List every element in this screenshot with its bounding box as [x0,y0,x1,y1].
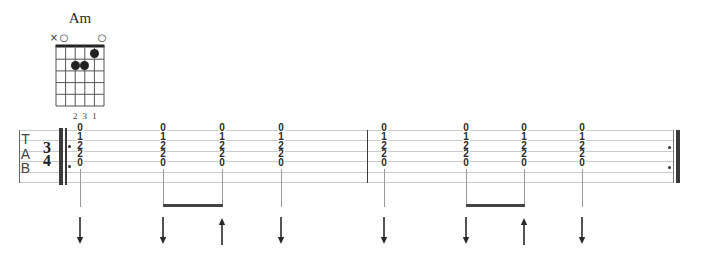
fret-number: 0 [521,159,528,168]
chord-event: 0 1 2 2 0 [158,124,168,167]
chord-event: 0 1 2 2 0 [379,124,389,167]
note-stem [281,169,282,207]
strum-arrow-icon [461,216,471,246]
staff-line [19,140,673,141]
tab-clef-a: A [19,147,32,161]
finger-dot [90,49,99,58]
staff-line [19,172,673,173]
note-stem [384,169,385,207]
finger-label: 3 [81,111,89,121]
note-stem [524,169,525,207]
strum-arrow-icon [519,216,529,246]
note-stem [222,169,223,207]
chord-event: 0 1 2 2 0 [276,124,286,167]
note-stem [582,169,583,207]
fretboard-grid [0,0,120,120]
tab-clef-b: B [19,161,32,175]
chord-event: 0 1 2 2 0 [217,124,227,167]
finger-label: 1 [90,111,98,121]
guitar-tab-sheet: Am × ○ ○ 2 3 1 [0,0,712,258]
tab-clef-t: T [19,132,32,146]
strum-arrow-icon [75,216,85,246]
repeat-dot [68,145,71,148]
strum-arrow-icon [217,216,227,246]
staff-line [19,151,673,152]
fret-number: 0 [278,159,285,168]
time-signature-denominator: 4 [40,154,54,168]
fret-number: 0 [381,159,388,168]
note-stem [80,169,81,207]
thick-barline [59,128,63,185]
finger-dot [71,61,80,70]
measure-barline [367,130,369,183]
fret-number: 0 [463,159,470,168]
chord-event: 0 1 2 2 0 [519,124,529,167]
finger-dot [80,61,89,70]
strum-arrow-icon [577,216,587,246]
strum-arrow-icon [379,216,389,246]
thick-barline [676,130,680,183]
fret-number: 0 [219,159,226,168]
repeat-dot [668,146,671,149]
finger-label: 2 [71,111,79,121]
note-stem [163,169,164,207]
strum-arrow-icon [158,216,168,246]
eighth-note-beam [466,204,525,207]
thin-barline [65,128,67,185]
eighth-note-beam [163,204,223,207]
fret-number: 0 [77,159,84,168]
repeat-dot [68,165,71,168]
chord-event: 0 1 2 2 0 [577,124,587,167]
chord-event: 0 1 2 2 0 [461,124,471,167]
thin-barline [673,130,674,183]
staff-line [19,161,673,162]
fret-number: 0 [579,159,586,168]
staff-line [19,182,673,183]
chord-event: 0 1 2 2 0 [75,124,85,167]
note-stem [466,169,467,207]
strum-arrow-icon [276,216,286,246]
staff-line [19,130,673,131]
repeat-dot [668,166,671,169]
fret-number: 0 [160,159,167,168]
